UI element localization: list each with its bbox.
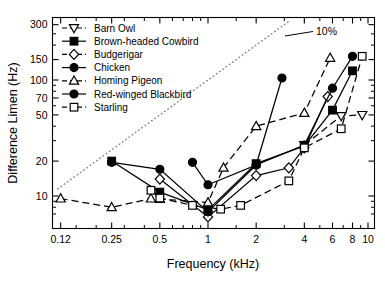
data-point: [348, 52, 356, 60]
x-tick-label: 0.12: [50, 233, 71, 245]
legend-marker: [70, 37, 78, 45]
y-tick-label: 300: [30, 18, 48, 30]
x-tick-label: 10: [362, 233, 374, 245]
legend-label: Barn Owl: [94, 23, 135, 34]
x-tick-label: 0.5: [153, 233, 168, 245]
x-tick-label: 0.25: [101, 233, 122, 245]
difference-limen-chart: 10205070100150300 0.120.250.51246810 10%…: [0, 0, 385, 281]
legend-label: Homing Pigeon: [94, 75, 162, 86]
legend-marker: [70, 103, 78, 111]
y-tick-label: 50: [36, 109, 48, 121]
x-tick-label: 6: [330, 233, 336, 245]
data-point: [147, 186, 155, 194]
data-point: [278, 74, 286, 82]
legend-marker: [70, 90, 78, 98]
y-tick-label: 150: [30, 53, 48, 65]
legend-label: Chicken: [94, 62, 130, 73]
legend-label: Starling: [94, 102, 128, 113]
data-point: [108, 158, 116, 166]
data-point: [204, 181, 212, 189]
data-point: [329, 106, 337, 114]
data-point: [237, 202, 245, 210]
data-point: [285, 177, 293, 185]
data-point: [217, 205, 225, 213]
figure-container: 10205070100150300 0.120.250.51246810 10%…: [0, 0, 385, 281]
data-point: [156, 165, 164, 173]
data-point: [337, 125, 345, 133]
data-point: [301, 144, 309, 152]
y-tick-label: 10: [36, 190, 48, 202]
legend-label: Budgerigar: [94, 49, 144, 60]
y-tick-label: 70: [36, 92, 48, 104]
y-tick-label: 100: [30, 74, 48, 86]
data-point: [189, 202, 197, 210]
legend-label: Brown-headed Cowbird: [94, 36, 199, 47]
legend-item-budgerigar[interactable]: Budgerigar: [62, 49, 144, 60]
x-tick-label: 8: [350, 233, 356, 245]
data-point: [358, 53, 366, 61]
data-point: [349, 67, 357, 75]
legend-label: Red-winged Blackbird: [94, 89, 191, 100]
legend-item-chicken[interactable]: Chicken: [62, 62, 130, 73]
x-tick-label: 1: [205, 233, 211, 245]
data-point: [156, 194, 164, 202]
y-axis-title: Difference Limen (Hz): [6, 62, 20, 183]
legend-item-starling[interactable]: Starling: [62, 102, 128, 113]
data-point: [252, 161, 260, 169]
data-point: [329, 84, 337, 92]
annotation-10-percent: 10%: [316, 25, 337, 37]
x-tick-label: 4: [301, 233, 307, 245]
legend-item-barn-owl[interactable]: Barn Owl: [62, 23, 135, 34]
x-tick-label: 2: [253, 233, 259, 245]
y-tick-label: 20: [36, 155, 48, 167]
data-point: [188, 158, 196, 166]
x-axis-title: Frequency (kHz): [167, 257, 259, 271]
legend-marker: [70, 64, 78, 72]
data-point: [204, 208, 212, 216]
